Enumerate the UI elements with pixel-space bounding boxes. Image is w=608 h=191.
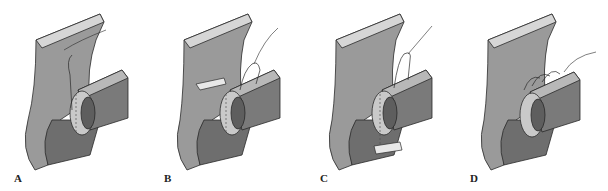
illustration-d	[456, 0, 608, 191]
illustration-b	[152, 0, 304, 191]
panel-b: B	[152, 0, 304, 191]
panel-label: D	[470, 172, 478, 184]
illustration-c	[304, 0, 456, 191]
panel-a: A	[0, 0, 152, 191]
panel-d: D	[456, 0, 608, 191]
panel-c: C	[304, 0, 456, 191]
panel-label: C	[320, 172, 328, 184]
panel-label: B	[164, 172, 171, 184]
illustration-a	[0, 0, 152, 191]
panel-label: A	[14, 172, 22, 184]
